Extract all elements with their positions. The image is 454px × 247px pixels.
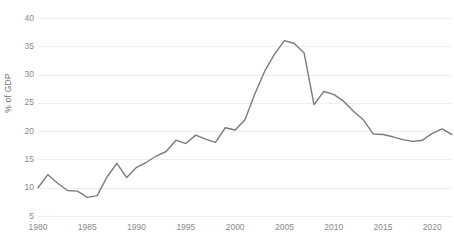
y-tick-label: 10 (8, 183, 34, 192)
x-tick-label: 2020 (423, 222, 442, 232)
y-tick-label: 35 (8, 42, 34, 51)
x-tick-label: 1980 (29, 222, 48, 232)
x-axis-tick-labels: 198019851990199520002005201020152020 (38, 222, 452, 242)
y-axis-tick-labels: 510152025303540 (0, 0, 34, 247)
y-tick-label: 40 (8, 14, 34, 23)
x-tick-label: 1990 (127, 222, 146, 232)
chart-container: % of GDP 510152025303540 198019851990199… (0, 0, 454, 247)
y-tick-label: 30 (8, 70, 34, 79)
y-tick-label: 15 (8, 155, 34, 164)
x-tick-label: 1985 (78, 222, 97, 232)
x-tick-label: 2000 (226, 222, 245, 232)
x-tick-label: 2015 (374, 222, 393, 232)
line-series (38, 18, 452, 216)
x-tick-label: 2010 (324, 222, 343, 232)
x-tick-label: 2005 (275, 222, 294, 232)
x-tick-label: 1995 (176, 222, 195, 232)
plot-area (38, 18, 452, 216)
gridline (38, 216, 452, 217)
y-tick-label: 5 (8, 212, 34, 221)
series-line (38, 41, 452, 198)
y-tick-label: 20 (8, 127, 34, 136)
y-tick-label: 25 (8, 98, 34, 107)
